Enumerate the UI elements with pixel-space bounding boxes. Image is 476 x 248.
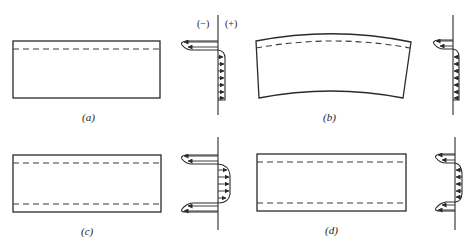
panel-label-b: (b) xyxy=(323,111,336,124)
panel-d: (d) xyxy=(257,137,462,237)
negative-sign-label: (−) xyxy=(197,18,209,30)
panel-label-a: (a) xyxy=(82,111,95,124)
panel-a: (a) (−) (+) xyxy=(13,15,237,124)
positive-sign-label: (+) xyxy=(225,18,237,30)
stress-profile-b xyxy=(434,15,460,115)
panel-label-d: (d) xyxy=(325,224,338,237)
panel-label-c: (c) xyxy=(81,225,94,238)
stress-profile-c xyxy=(182,137,231,230)
stress-diagram: (a) (−) (+) (b) xyxy=(0,0,476,248)
stress-profile-d xyxy=(436,137,463,230)
panel-c: (c) xyxy=(13,137,230,238)
plate-outline-b xyxy=(256,34,411,98)
panel-b: (b) xyxy=(256,15,459,124)
stress-profile-a: (−) (+) xyxy=(182,15,238,115)
dashed-layer-b xyxy=(256,41,410,48)
